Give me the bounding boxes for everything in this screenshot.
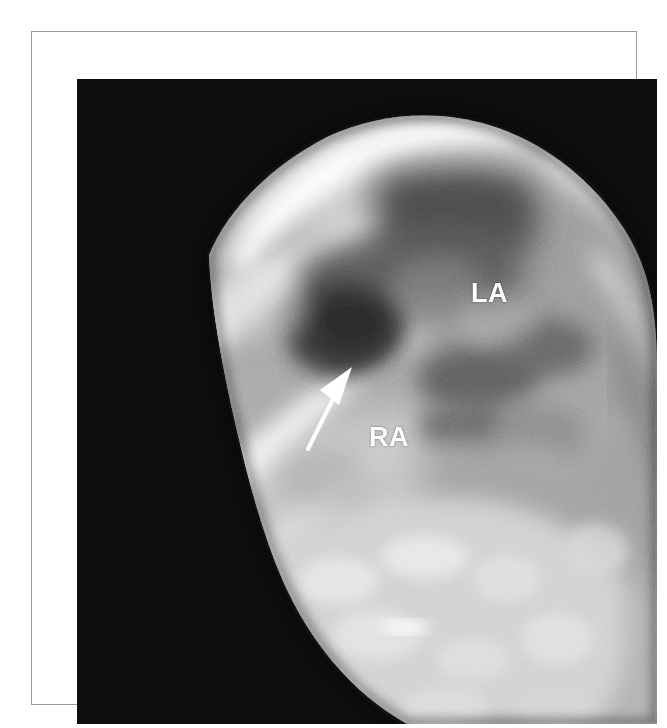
- ultrasound-image-viewport[interactable]: LA RA: [77, 79, 657, 724]
- figure-plate: LA RA: [0, 0, 667, 728]
- ultrasound-image: [77, 79, 657, 724]
- figure-border-frame: LA RA: [31, 31, 637, 705]
